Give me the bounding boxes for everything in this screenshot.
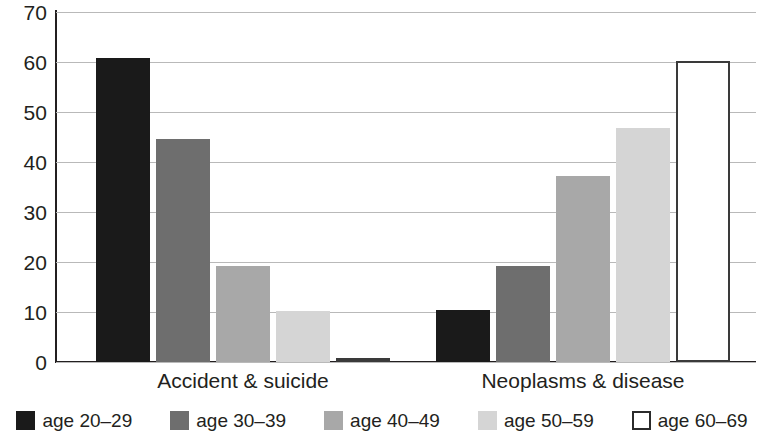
legend-item: age 40–49 bbox=[324, 411, 440, 430]
legend-label: age 50–59 bbox=[504, 411, 594, 430]
bar-chart: 010203040506070 Accident & suicideNeopla… bbox=[0, 0, 764, 440]
bar bbox=[96, 58, 150, 362]
bar bbox=[496, 266, 550, 363]
legend-swatch-icon bbox=[632, 411, 651, 430]
gridline-0: 0 bbox=[56, 362, 756, 363]
legend-label: age 60–69 bbox=[658, 411, 748, 430]
y-tick-label-60: 60 bbox=[23, 52, 47, 73]
bar bbox=[556, 176, 610, 362]
y-tick-label-0: 0 bbox=[35, 352, 47, 373]
bar bbox=[156, 139, 210, 363]
x-axis-category-label: Neoplasms & disease bbox=[481, 370, 684, 391]
y-tick-label-40: 40 bbox=[23, 152, 47, 173]
legend-swatch-icon bbox=[16, 411, 35, 430]
y-tick-label-70: 70 bbox=[23, 2, 47, 23]
bar bbox=[276, 311, 330, 363]
legend-item: age 60–69 bbox=[632, 411, 748, 430]
legend-swatch-icon bbox=[478, 411, 497, 430]
y-tick-label-30: 30 bbox=[23, 202, 47, 223]
legend-label: age 40–49 bbox=[350, 411, 440, 430]
bar bbox=[616, 128, 670, 362]
legend-item: age 50–59 bbox=[478, 411, 594, 430]
y-tick-label-50: 50 bbox=[23, 102, 47, 123]
chart-legend: age 20–29age 30–39age 40–49age 50–59age … bbox=[0, 407, 764, 433]
legend-label: age 20–29 bbox=[42, 411, 132, 430]
bar bbox=[436, 310, 490, 363]
plot-area: 010203040506070 bbox=[56, 12, 756, 362]
legend-item: age 20–29 bbox=[16, 411, 132, 430]
legend-swatch-icon bbox=[324, 411, 343, 430]
bar bbox=[216, 266, 270, 363]
legend-swatch-icon bbox=[170, 411, 189, 430]
legend-item: age 30–39 bbox=[170, 411, 286, 430]
x-axis-category-label: Accident & suicide bbox=[157, 370, 329, 391]
legend-label: age 30–39 bbox=[196, 411, 286, 430]
bar bbox=[676, 61, 730, 362]
y-tick-label-20: 20 bbox=[23, 252, 47, 273]
bar bbox=[336, 358, 390, 362]
y-tick-label-10: 10 bbox=[23, 302, 47, 323]
bars-layer bbox=[56, 12, 756, 362]
